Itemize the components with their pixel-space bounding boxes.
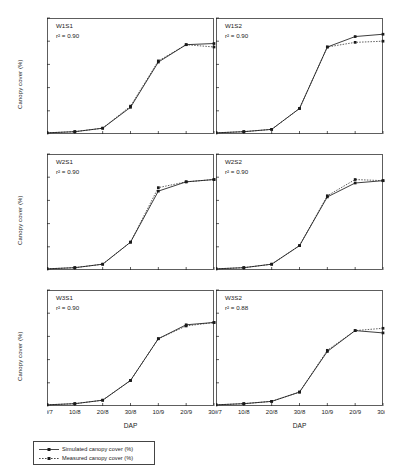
data-point-simulated (382, 332, 385, 335)
panel-w2s1: 20406080100W2S1r² = 0.90 (47, 146, 216, 282)
legend-key-measured-icon (38, 454, 60, 463)
legend-item-simulated: Simulated canopy cover (%) (38, 445, 150, 454)
data-point-simulated (270, 128, 273, 131)
x-tick-label: 30/7 (216, 409, 222, 415)
data-point-simulated (242, 130, 245, 133)
panel-label: W3S2 (225, 294, 242, 301)
x-tick-label: 10/9 (321, 409, 333, 415)
panel-label: W3S1 (56, 294, 73, 301)
data-point-simulated (216, 403, 217, 406)
panel-w2s2: 20406080100W2S2r² = 0.90 (216, 146, 385, 282)
data-point-simulated (298, 391, 301, 394)
x-tick-label: 30/8 (294, 409, 306, 415)
data-point-simulated (213, 321, 216, 324)
series-line-measured (47, 180, 214, 269)
panel-r2-label: r² = 0.88 (225, 304, 249, 311)
x-axis-label-col1: DAP (47, 422, 214, 429)
series-line-measured (47, 45, 214, 133)
data-point-measured (157, 186, 160, 189)
data-point-simulated (216, 131, 217, 134)
series-line-simulated (47, 180, 214, 269)
data-point-measured (213, 46, 216, 49)
legend-key-simulated-icon (38, 445, 60, 454)
y-axis-label-row3: Canopy cover (%) (17, 331, 23, 381)
series-line-simulated (47, 44, 214, 133)
legend-label-simulated: Simulated canopy cover (%) (60, 446, 133, 452)
panel-r2-label: r² = 0.90 (56, 168, 80, 175)
x-tick-label: 20/9 (180, 409, 192, 415)
y-axis-label-row1: Canopy cover (%) (17, 59, 23, 109)
data-point-simulated (216, 267, 217, 270)
panel-r2-label: r² = 0.90 (225, 168, 249, 175)
data-point-simulated (382, 179, 385, 182)
x-tick-label: 20/9 (349, 409, 361, 415)
data-point-simulated (157, 61, 160, 64)
data-point-simulated (129, 241, 132, 244)
data-point-simulated (185, 180, 188, 183)
series-line-simulated (216, 181, 383, 269)
data-point-simulated (129, 379, 132, 382)
canopy-cover-figure: 20406080100W1S1r² = 0.9020406080100W1S2r… (0, 0, 406, 470)
data-point-simulated (157, 190, 160, 193)
data-point-simulated (242, 402, 245, 405)
series-line-simulated (216, 331, 383, 405)
data-point-simulated (101, 399, 104, 402)
x-tick-label: 30/7 (47, 409, 53, 415)
data-point-simulated (47, 403, 48, 406)
x-axis-label-col2: DAP (216, 422, 383, 429)
x-tick-label: 20/8 (266, 409, 278, 415)
data-point-measured (382, 327, 385, 330)
data-point-simulated (47, 267, 48, 270)
data-point-simulated (270, 263, 273, 266)
data-point-simulated (213, 42, 216, 45)
series-line-simulated (47, 322, 214, 404)
data-point-simulated (157, 337, 160, 340)
data-point-simulated (354, 35, 357, 38)
panel-r2-label: r² = 0.90 (56, 304, 80, 311)
data-point-simulated (101, 127, 104, 130)
x-tick-label: 30/8 (125, 409, 137, 415)
data-point-simulated (73, 266, 76, 269)
x-tick-label: 10/8 (238, 409, 250, 415)
legend-label-measured: Measured canopy cover (%) (60, 455, 133, 461)
data-point-simulated (129, 106, 132, 109)
panel-grid: 20406080100W1S1r² = 0.9020406080100W1S2r… (47, 10, 385, 418)
data-point-simulated (73, 402, 76, 405)
y-axis-label-row2: Canopy cover (%) (17, 195, 23, 245)
data-point-simulated (354, 182, 357, 185)
data-point-simulated (101, 263, 104, 266)
panel-w1s2: 20406080100W1S2r² = 0.90 (216, 10, 385, 146)
x-tick-label: 30/9 (208, 409, 216, 415)
data-point-simulated (298, 244, 301, 247)
data-point-simulated (270, 400, 273, 403)
data-point-simulated (47, 131, 48, 134)
panel-w1s1: 20406080100W1S1r² = 0.90 (47, 10, 216, 146)
x-tick-label: 10/9 (152, 409, 164, 415)
data-point-simulated (185, 43, 188, 46)
data-point-simulated (354, 329, 357, 332)
data-point-simulated (73, 130, 76, 133)
panel-w3s2: 2040608010030/710/820/830/810/920/930/9W… (216, 282, 385, 418)
panel-label: W1S2 (225, 22, 242, 29)
legend: Simulated canopy cover (%) Measured cano… (33, 441, 155, 465)
panel-r2-label: r² = 0.90 (225, 32, 249, 39)
x-tick-label: 10/8 (69, 409, 81, 415)
data-point-simulated (326, 350, 329, 353)
series-line-measured (216, 180, 383, 269)
data-point-simulated (298, 107, 301, 110)
data-point-measured (354, 178, 357, 181)
data-point-simulated (326, 46, 329, 49)
data-point-simulated (213, 178, 216, 181)
panel-label: W2S1 (56, 158, 73, 165)
legend-item-measured: Measured canopy cover (%) (38, 454, 150, 463)
x-tick-label: 20/8 (97, 409, 109, 415)
panel-label: W2S2 (225, 158, 242, 165)
x-tick-label: 30/9 (377, 409, 385, 415)
data-point-simulated (382, 33, 385, 36)
panel-r2-label: r² = 0.90 (56, 32, 80, 39)
data-point-measured (354, 41, 357, 44)
series-line-measured (47, 322, 214, 404)
data-point-measured (382, 40, 385, 43)
panel-label: W1S1 (56, 22, 73, 29)
panel-w3s1: 2040608010030/710/820/830/810/920/930/9W… (47, 282, 216, 418)
